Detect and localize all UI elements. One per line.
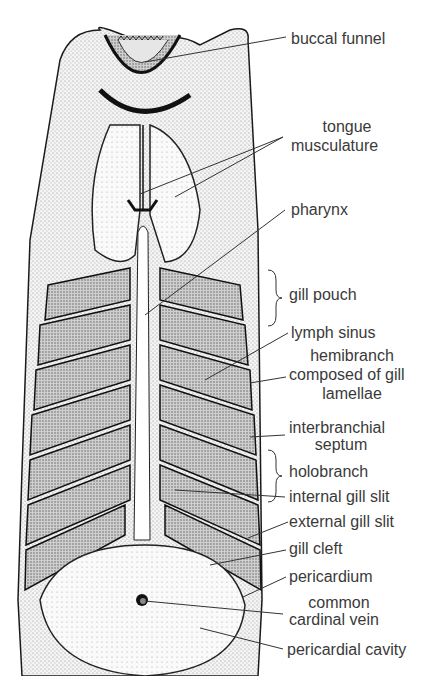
label-common: common (289, 594, 389, 611)
label-interbranchial: interbranchial (289, 419, 385, 436)
label-cardinal-vein: cardinal vein (289, 611, 379, 628)
label-lamellae: lamellae (289, 385, 415, 402)
label-internal-gill-slit: internal gill slit (289, 488, 389, 505)
label-septum: septum (289, 436, 393, 453)
label-gill-pouch: gill pouch (289, 286, 357, 303)
label-tongue: tongue (291, 118, 403, 135)
label-pharynx: pharynx (291, 201, 348, 218)
label-buccal-funnel: buccal funnel (291, 30, 385, 47)
label-pericardial-cavity: pericardial cavity (287, 641, 406, 658)
label-gill-cleft: gill cleft (289, 540, 342, 557)
label-hemibranch: hemibranch (289, 347, 415, 364)
label-composed-of-gill: composed of gill (289, 366, 405, 383)
label-holobranch: holobranch (289, 463, 368, 480)
label-lymph-sinus: lymph sinus (291, 324, 375, 341)
label-pericardium: pericardium (289, 568, 373, 585)
label-musculature: musculature (291, 137, 378, 154)
label-external-gill-slit: external gill slit (289, 513, 394, 530)
